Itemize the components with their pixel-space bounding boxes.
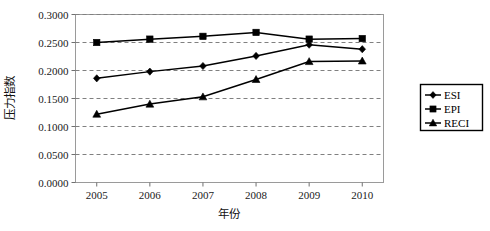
y-tick-label: 0.1000 <box>38 121 69 133</box>
marker-square <box>430 106 436 112</box>
chart-figure: 0.00000.05000.10000.15000.20000.25000.30… <box>0 0 490 231</box>
x-tick-label: 2008 <box>245 189 268 201</box>
marker-square <box>253 29 259 35</box>
y-tick-label: 0.2500 <box>38 37 69 49</box>
y-axis-ticks: 0.00000.05000.10000.15000.20000.25000.30… <box>38 9 75 189</box>
legend-label: RECI <box>444 117 469 129</box>
x-tick-label: 2005 <box>86 189 109 201</box>
marker-square <box>94 39 100 45</box>
y-tick-label: 0.0000 <box>38 177 69 189</box>
legend: ESIEPIRECI <box>421 85 483 131</box>
y-axis-title: 压力指数 <box>3 75 16 120</box>
legend-label: ESI <box>444 89 461 101</box>
marker-square <box>306 36 312 42</box>
y-tick-label: 0.3000 <box>38 9 69 21</box>
x-axis-title: 年份 <box>218 207 241 220</box>
line-chart: 0.00000.05000.10000.15000.20000.25000.30… <box>0 0 490 231</box>
y-tick-label: 0.2000 <box>38 65 69 77</box>
y-tick-label: 0.0500 <box>38 149 69 161</box>
x-tick-label: 2009 <box>298 189 321 201</box>
y-tick-label: 0.1500 <box>38 93 69 105</box>
marker-square <box>200 33 206 39</box>
x-tick-label: 2007 <box>192 189 215 201</box>
x-tick-label: 2006 <box>139 189 162 201</box>
x-tick-label: 2010 <box>351 189 374 201</box>
x-axis-ticks: 200520062007200820092010 <box>86 183 374 201</box>
legend-label: EPI <box>444 103 461 115</box>
marker-square <box>147 36 153 42</box>
marker-square <box>359 35 365 41</box>
